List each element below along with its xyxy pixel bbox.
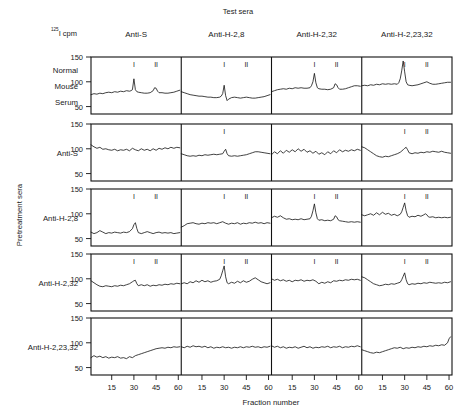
- trace-line: [362, 273, 451, 286]
- peak-label-II-3-0: II: [154, 258, 158, 265]
- x-tick-label-3-45: 45: [423, 383, 431, 392]
- y-tick-label-4-50: 50: [75, 364, 83, 373]
- x-tick-label-0-60: 60: [174, 383, 182, 392]
- peak-label-II-1-3: II: [425, 128, 429, 135]
- peak-label-I-0-1: I: [223, 61, 225, 68]
- peak-label-I-2-2: I: [313, 193, 315, 200]
- y-tick-label-4-100: 100: [70, 339, 83, 348]
- trace-line: [91, 347, 180, 359]
- x-tick-label-3-15: 15: [378, 383, 386, 392]
- panel-3-1: III: [181, 258, 270, 284]
- column-header-3: Anti-H-2,23,32: [381, 30, 433, 39]
- peak-label-II-3-3: II: [425, 258, 429, 265]
- panel-0-3: III: [362, 61, 451, 86]
- peak-label-II-2-3: II: [425, 193, 429, 200]
- trace-line: [181, 85, 270, 100]
- trace-line: [362, 147, 451, 157]
- peak-label-II-0-1: II: [244, 61, 248, 68]
- top-title: Test sera: [223, 7, 254, 16]
- peak-label-I-3-2: I: [313, 258, 315, 265]
- x-tick-label-1-45: 45: [242, 383, 250, 392]
- y-tick-label-3-100: 100: [70, 275, 83, 284]
- x-tick-label-0-15: 15: [108, 383, 116, 392]
- panel-4-0: [91, 347, 180, 359]
- panel-2-2: III: [272, 193, 361, 222]
- peak-label-I-0-2: I: [313, 61, 315, 68]
- y-tick-label-0-100: 100: [70, 78, 83, 87]
- peak-label-I-3-3: I: [404, 258, 406, 265]
- x-tick-label-1-30: 30: [220, 383, 228, 392]
- trace-line: [91, 280, 180, 286]
- y-tick-label-0-150: 150: [70, 53, 83, 62]
- x-tick-label-2-15: 15: [288, 383, 296, 392]
- trace-line: [272, 73, 361, 91]
- trace-line: [362, 337, 451, 353]
- column-header-1: Anti-H-2,8: [208, 30, 245, 39]
- column-header-0: Anti-S: [125, 30, 147, 39]
- x-tick-label-0-30: 30: [130, 383, 138, 392]
- panel-1-2: [272, 149, 361, 155]
- panel-2-0: III: [91, 193, 180, 234]
- peak-label-II-3-1: II: [244, 258, 248, 265]
- panel-0-2: III: [272, 61, 361, 92]
- panel-0-1: III: [181, 61, 270, 101]
- trace-line: [272, 149, 361, 155]
- panel-3-3: III: [362, 258, 451, 286]
- peak-label-II-3-2: II: [335, 258, 339, 265]
- x-tick-label-2-45: 45: [332, 383, 340, 392]
- y-tick-label-1-50: 50: [75, 170, 83, 179]
- x-tick-label-0-45: 45: [152, 383, 160, 392]
- panel-0-0: III: [91, 61, 180, 95]
- x-tick-label-1-60: 60: [264, 383, 272, 392]
- peak-label-I-2-3: I: [404, 193, 406, 200]
- panel-4-3: [362, 337, 451, 353]
- trace-line: [272, 204, 361, 222]
- y-tick-label-3-50: 50: [75, 300, 83, 309]
- x-tick-label-2-30: 30: [310, 383, 318, 392]
- trace-line: [91, 223, 180, 234]
- y-axis-unit-base: I cpm: [59, 29, 77, 38]
- panel-1-0: [91, 145, 180, 151]
- y-tick-label-4-150: 150: [70, 314, 83, 323]
- bottom-axis-label: Fraction number: [243, 398, 300, 407]
- trace-line: [91, 79, 180, 95]
- peak-label-II-2-1: II: [244, 193, 248, 200]
- y-tick-label-2-50: 50: [75, 235, 83, 244]
- trace-line: [272, 346, 361, 348]
- x-tick-label-3-30: 30: [400, 383, 408, 392]
- trace-line: [91, 145, 180, 151]
- peak-label-II-0-0: II: [154, 61, 158, 68]
- panel-4-1: [181, 346, 270, 348]
- peak-label-I-3-0: I: [133, 258, 135, 265]
- panel-3-0: III: [91, 258, 180, 287]
- peak-label-II-0-2: II: [335, 61, 339, 68]
- y-tick-label-1-100: 100: [70, 145, 83, 154]
- trace-line: [272, 279, 361, 284]
- trace-line: [362, 203, 451, 218]
- panel-3-2: III: [272, 258, 361, 284]
- left-axis-label: Pretreatment sera: [15, 183, 24, 246]
- x-tick-label-2-60: 60: [355, 383, 363, 392]
- trace-line: [181, 346, 270, 348]
- x-tick-label-1-15: 15: [198, 383, 206, 392]
- peak-label-I-1-1: I: [223, 128, 225, 135]
- row-label-0-0: Normal: [53, 66, 78, 75]
- peak-label-I-3-1: I: [223, 258, 225, 265]
- peak-label-I-2-1: I: [223, 193, 225, 200]
- x-tick-label-3-60: 60: [445, 383, 453, 392]
- y-tick-label-3-150: 150: [70, 250, 83, 259]
- peak-label-I-2-0: I: [133, 193, 135, 200]
- peak-label-II-0-3: II: [425, 61, 429, 68]
- y-axis-unit-label: 125I cpm: [51, 27, 77, 39]
- panel-1-3: III: [362, 128, 451, 157]
- radioimmunoassay-chromatogram-figure: Test sera125I cpmAnti-SAnti-H-2,8Anti-H-…: [0, 0, 461, 410]
- panel-4-2: [272, 346, 361, 348]
- y-tick-label-2-150: 150: [70, 185, 83, 194]
- y-tick-label-2-100: 100: [70, 210, 83, 219]
- peak-label-II-2-2: II: [335, 193, 339, 200]
- y-tick-label-1-150: 150: [70, 120, 83, 129]
- peak-label-I-1-3: I: [404, 128, 406, 135]
- trace-line: [181, 149, 270, 156]
- figure-container: Test sera125I cpmAnti-SAnti-H-2,8Anti-H-…: [0, 0, 461, 410]
- column-header-2: Anti-H-2,32: [296, 30, 337, 39]
